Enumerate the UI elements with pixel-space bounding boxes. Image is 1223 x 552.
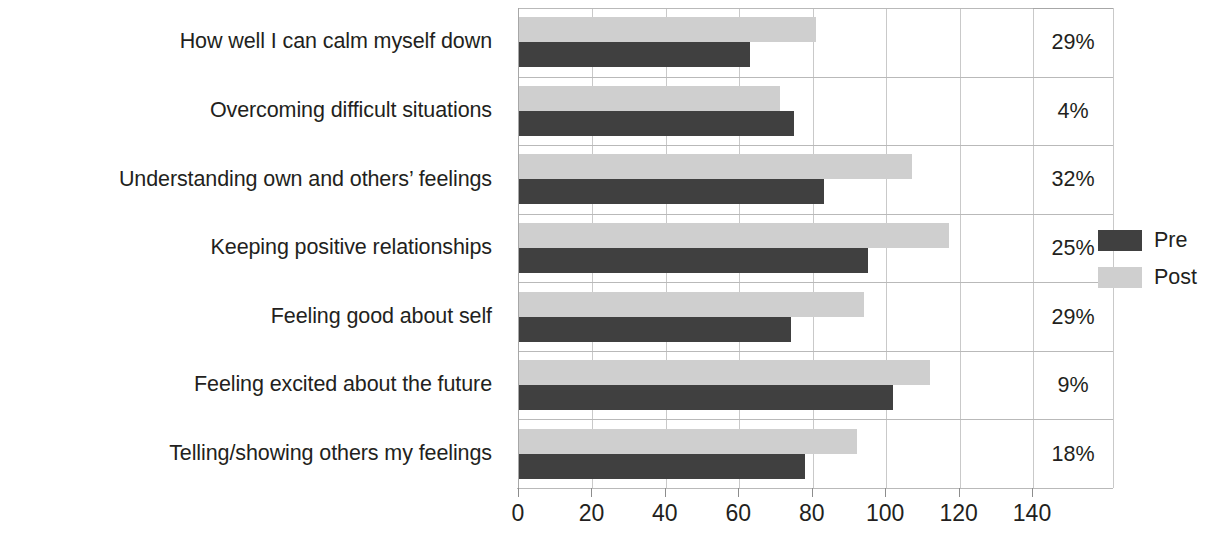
percent-change-value: 18% [1033,419,1113,488]
bar-row [519,77,1033,146]
axis-line [517,488,1032,489]
bar-row [519,145,1033,214]
bar-pre [519,248,868,273]
legend-item-pre: Pre [1098,228,1197,253]
bar-row [519,351,1033,420]
bar-pre [519,317,791,342]
axis-tick-label: 40 [652,500,678,527]
bar-post [519,360,930,385]
bar-row [519,282,1033,351]
bar-pre [519,454,805,479]
category-label: Feeling good about self [0,282,505,351]
axis-tick [1032,488,1033,497]
bar-pre [519,385,893,410]
axis-tick [885,488,886,497]
light-gray-swatch [1098,267,1142,288]
axis-tick [591,488,592,497]
axis-tick [959,488,960,497]
bar-chart: How well I can calm myself down Overcomi… [0,0,1223,552]
axis-tick-label: 120 [939,500,977,527]
axis-tick-label: 100 [866,500,904,527]
axis-tick-label: 20 [579,500,605,527]
category-label: Overcoming difficult situations [0,77,505,146]
category-label: Feeling excited about the future [0,351,505,420]
bar-rows [519,8,1033,488]
axis-tick [665,488,666,497]
axis-tick [518,488,519,497]
bar-pre [519,42,750,67]
value-axis: 020406080100120140 [518,488,1032,544]
axis-tick-label: 140 [1013,500,1051,527]
plot-area [518,8,1034,488]
legend: Pre Post [1098,228,1197,290]
percent-change-value: 32% [1033,145,1113,214]
bar-pre [519,179,824,204]
category-label: How well I can calm myself down [0,8,505,77]
legend-label: Pre [1154,228,1187,253]
axis-tick-label: 80 [799,500,825,527]
bar-row [519,419,1033,488]
dark-gray-swatch [1098,230,1142,251]
percent-change-value: 4% [1033,77,1113,146]
axis-tick-label: 0 [512,500,525,527]
bar-post [519,86,780,111]
category-label: Keeping positive relationships [0,214,505,283]
percent-change-value: 9% [1033,351,1113,420]
bar-post [519,429,857,454]
bar-row [519,214,1033,283]
bar-post [519,292,864,317]
percent-change-value: 29% [1033,282,1113,351]
category-label: Telling/showing others my feelings [0,419,505,488]
axis-tick-label: 60 [725,500,751,527]
legend-label: Post [1154,265,1197,290]
axis-tick [738,488,739,497]
axis-tick [812,488,813,497]
category-axis: How well I can calm myself down Overcomi… [0,8,505,488]
percent-change-value: 29% [1033,8,1113,77]
category-label: Understanding own and others’ feelings [0,145,505,214]
bar-post [519,223,949,248]
legend-item-post: Post [1098,265,1197,290]
bar-pre [519,111,794,136]
bar-post [519,17,816,42]
bar-row [519,8,1033,77]
bar-post [519,154,912,179]
